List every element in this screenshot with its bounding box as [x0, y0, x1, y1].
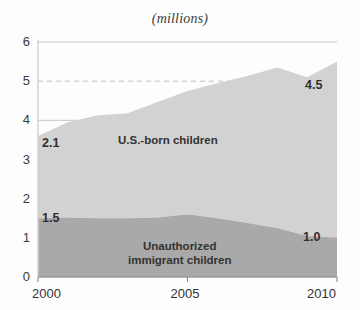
series-label-unauthorized: Unauthorized immigrant children: [128, 239, 232, 268]
value-label-us-born-start: 2.1: [42, 136, 59, 150]
value-label-unauthorized-end: 1.0: [303, 230, 320, 244]
x-axis-tick-label: 2005: [171, 286, 200, 301]
y-axis-tick-label: 3: [8, 152, 30, 167]
x-axis-tick-label: 2010: [307, 286, 336, 301]
value-label-unauthorized-start: 1.5: [42, 211, 59, 225]
y-axis-tick-label: 4: [8, 112, 30, 127]
y-axis-tick-label: 5: [8, 73, 30, 88]
area-us-born-children: [38, 62, 337, 238]
x-axis-ticks: [38, 277, 337, 282]
y-axis-tick-label: 0: [8, 269, 30, 284]
y-axis-tick-label: 1: [8, 230, 30, 245]
x-axis-tick-label: 2000: [32, 286, 61, 301]
value-label-us-born-end: 4.5: [305, 78, 322, 92]
series-label-us-born: U.S.-born children: [118, 133, 218, 147]
y-axis-tick-label: 2: [8, 191, 30, 206]
y-axis-tick-label: 6: [8, 34, 30, 49]
chart-container: (millions) 0123456 200020052010 U.S.-bor…: [0, 0, 360, 310]
